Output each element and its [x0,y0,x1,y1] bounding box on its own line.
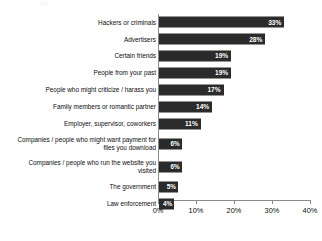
bar-wrapper: 17% [159,85,224,96]
x-axis-tick-label: 0% [143,206,173,215]
x-axis-tick [234,200,235,204]
bar-wrapper: 14% [159,101,212,112]
bar-category-label: Employer, supervisor, coworkers [0,120,156,128]
bar-category-label: The government [0,183,156,191]
bar: 6% [159,138,182,149]
image-artifact [40,1,48,6]
bar: 19% [159,51,231,62]
bar-category-label: Family members or romantic partner [0,103,156,111]
bar-value-label: 6% [171,164,182,170]
bar-row: Advertisers28% [0,31,322,48]
bar-wrapper: 6% [159,161,182,172]
bar: 6% [159,161,182,172]
bar-value-label: 28% [249,36,265,43]
bar: 19% [159,68,231,79]
x-axis-tick [272,200,273,204]
x-axis-tick [158,200,159,204]
bar: 11% [159,118,201,129]
bar-row: Employer, supervisor, coworkers11% [0,115,322,132]
bar-row: People from your past19% [0,65,322,82]
bar-chart: Hackers or criminals33%Advertisers28%Cer… [0,0,322,241]
bar: 5% [159,181,178,192]
bar: 17% [159,85,224,96]
bar-wrapper: 5% [159,181,178,192]
bar-value-label: 17% [207,87,223,94]
bar-value-label: 6% [171,141,182,147]
bar-category-label: Advertisers [0,36,156,44]
bar-category-label: Certain friends [0,52,156,60]
bar-row: Companies / people who might want paymen… [0,132,322,155]
bar-category-label: Companies / people who might want paymen… [0,136,156,151]
bar-wrapper: 6% [159,138,182,149]
bar-wrapper: 33% [159,17,284,28]
bar-row: The government5% [0,178,322,195]
bar-category-label: Hackers or criminals [0,19,156,27]
x-axis-tick-label: 10% [181,206,211,215]
bar-row: People who might criticize / harass you1… [0,82,322,99]
bar-category-label: People from your past [0,69,156,77]
bar-value-label: 14% [196,104,212,111]
bar-row: Companies / people who run the website y… [0,155,322,178]
bar-wrapper: 19% [159,51,231,62]
bar-value-label: 11% [185,120,201,127]
bar-category-label: Companies / people who run the website y… [0,159,156,174]
x-axis-tick [196,200,197,204]
bar-wrapper: 11% [159,118,201,129]
bar: 28% [159,34,265,45]
bar-value-label: 19% [215,53,231,60]
bar-value-label: 5% [167,183,178,189]
bar: 33% [159,17,284,28]
bar-category-label: People who might criticize / harass you [0,86,156,94]
bar-wrapper: 19% [159,68,231,79]
bar-row: Certain friends19% [0,48,322,65]
bar: 14% [159,101,212,112]
bar-wrapper: 28% [159,34,265,45]
bar-row: Hackers or criminals33% [0,14,322,31]
bar-value-label: 33% [268,19,284,26]
x-axis-tick-labels: 0%10%20%30%40% [0,206,322,220]
x-axis-tick-label: 40% [295,206,322,215]
x-axis-tick-label: 30% [257,206,287,215]
bar-row: Family members or romantic partner14% [0,98,322,115]
x-axis-tick [310,200,311,204]
x-axis-tick-label: 20% [219,206,249,215]
bar-rows: Hackers or criminals33%Advertisers28%Cer… [0,14,322,200]
bar-value-label: 19% [215,70,231,77]
